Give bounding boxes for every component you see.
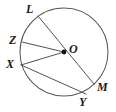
vertex-label-x: X [6, 58, 14, 70]
vertex-label-z: Z [9, 34, 16, 46]
segment-radius-zo [22, 42, 64, 52]
segment-radius-xo [21, 52, 64, 65]
segment-chord-xy [21, 65, 86, 94]
circle-diagram: L Z O X Y M [0, 0, 116, 112]
geometry-canvas [0, 0, 116, 112]
vertex-label-m: M [97, 81, 108, 93]
segment-diameter-lm [38, 16, 94, 84]
center-point-dot [62, 50, 67, 55]
vertex-label-y: Y [79, 96, 86, 108]
vertex-label-l: L [26, 3, 33, 15]
vertex-label-o: O [69, 43, 78, 55]
